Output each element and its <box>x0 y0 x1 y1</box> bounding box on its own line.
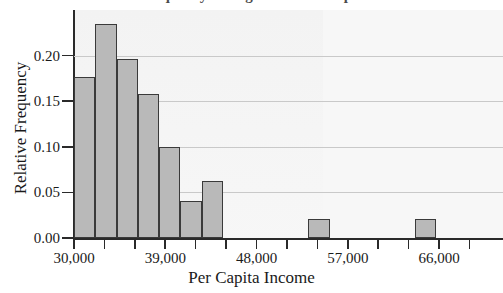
histogram-bar <box>159 147 180 238</box>
x-tick-mark <box>104 240 106 249</box>
x-tick-mark <box>164 240 166 249</box>
x-tick-mark <box>73 240 75 249</box>
histogram-bar <box>415 219 436 238</box>
histogram-bar <box>117 59 138 238</box>
x-tick-mark <box>377 240 379 249</box>
x-tick-mark <box>347 240 349 249</box>
x-tick-mark <box>408 240 410 249</box>
x-tick-mark <box>438 240 440 249</box>
y-tick-label: 0.00 <box>34 230 60 247</box>
histogram-bar <box>74 77 95 238</box>
y-tick-label: 0.15 <box>34 93 60 110</box>
x-tick-label: 66,000 <box>418 250 459 267</box>
histogram-figure: Relative Frequency Histogram of Per Capi… <box>0 0 503 293</box>
y-tick-mark <box>62 192 73 194</box>
y-axis-title: Relative Frequency <box>11 23 31 233</box>
y-tick-mark <box>62 146 73 148</box>
y-tick-mark <box>62 55 73 57</box>
y-tick-label: 0.10 <box>34 138 60 155</box>
x-tick-label: 48,000 <box>236 250 277 267</box>
x-axis-title: Per Capita Income <box>0 268 503 288</box>
y-tick-label: 0.05 <box>34 184 60 201</box>
y-tick-label: 0.20 <box>34 47 60 64</box>
x-tick-mark <box>256 240 258 249</box>
histogram-bar <box>202 181 223 238</box>
x-tick-mark <box>225 240 227 249</box>
x-tick-mark <box>286 240 288 249</box>
x-tick-mark <box>317 240 319 249</box>
y-tick-mark <box>62 237 73 239</box>
histogram-bar <box>95 24 116 238</box>
x-tick-mark <box>195 240 197 249</box>
histogram-bar <box>138 94 159 238</box>
figure-title-text: Relative Frequency Histogram of Per Capi… <box>83 0 420 4</box>
x-tick-mark <box>134 240 136 249</box>
histogram-bar <box>308 219 329 238</box>
x-tick-label: 30,000 <box>53 250 94 267</box>
x-tick-label: 57,000 <box>327 250 368 267</box>
x-tick-label: 39,000 <box>145 250 186 267</box>
y-tick-mark <box>62 100 73 102</box>
figure-title-cropped: Relative Frequency Histogram of Per Capi… <box>0 0 503 10</box>
histogram-bar <box>180 201 201 238</box>
gridline <box>74 56 503 57</box>
x-tick-mark <box>469 240 471 249</box>
